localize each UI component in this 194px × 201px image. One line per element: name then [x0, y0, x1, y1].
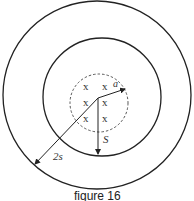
figure-caption: figure 16	[74, 189, 121, 201]
label-2s: 2s	[53, 150, 63, 162]
field-marker: x	[83, 96, 89, 108]
field-marker: x	[102, 80, 108, 92]
outer-circle	[3, 1, 191, 189]
diagram: x x x x x x a S 2s figure 16	[0, 0, 194, 201]
field-marker: x	[102, 112, 108, 124]
label-a: a	[113, 78, 118, 89]
field-marker: x	[83, 112, 89, 124]
label-s: S	[103, 133, 109, 145]
dashed-circle	[70, 74, 128, 132]
field-marker: x	[83, 80, 89, 92]
field-marker: x	[102, 96, 108, 108]
